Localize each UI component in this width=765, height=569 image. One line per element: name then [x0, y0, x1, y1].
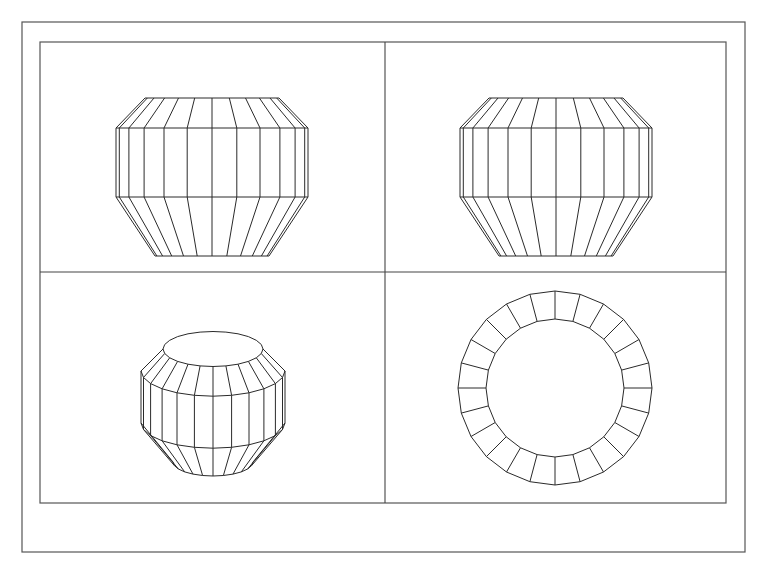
radial-edge [530, 294, 537, 321]
drawing-canvas [0, 0, 765, 569]
top-face [163, 332, 263, 367]
radial-edge [573, 455, 580, 482]
facet-edge [261, 98, 295, 256]
facet-edge [233, 364, 249, 474]
viewport-top-view[interactable] [458, 291, 652, 485]
radial-edge [615, 340, 639, 354]
facet-edge [267, 98, 305, 256]
radial-edge [590, 304, 604, 328]
radial-edge [471, 423, 495, 437]
facet-edge [187, 98, 197, 256]
radial-edge [573, 294, 580, 321]
facet-edge [508, 98, 528, 256]
facet-edge [611, 98, 649, 256]
radial-edge [486, 437, 506, 457]
radial-edge [471, 340, 495, 354]
facet-edge [585, 98, 605, 256]
facet-edge [144, 354, 175, 466]
facet-edge [194, 366, 202, 476]
radial-edge [590, 448, 604, 472]
facet-edge [177, 364, 193, 474]
facet-edge [223, 366, 231, 476]
radial-edge [622, 406, 649, 413]
facet-edge [129, 98, 163, 256]
radial-edge [507, 304, 521, 328]
facet-edge [531, 98, 541, 256]
radial-edge [604, 319, 624, 339]
facet-edge [241, 98, 261, 256]
viewport-side-view[interactable] [460, 98, 652, 256]
facet-edge [463, 98, 501, 256]
facet-edge [119, 98, 157, 256]
inner-ring [486, 319, 624, 457]
facet-edge [227, 98, 237, 256]
facet-edge [571, 98, 581, 256]
radial-edge [615, 423, 639, 437]
facet-edge [473, 98, 507, 256]
outer-frame [22, 22, 745, 552]
radial-edge [530, 455, 537, 482]
radial-edge [461, 363, 488, 370]
viewport-isometric-view[interactable] [141, 332, 285, 477]
radial-edge [507, 448, 521, 472]
radial-edge [604, 437, 624, 457]
radial-edge [486, 319, 506, 339]
viewport-front-view[interactable] [116, 98, 308, 256]
facet-edge [248, 358, 276, 469]
radial-edge [622, 363, 649, 370]
facet-edge [252, 354, 283, 466]
radial-edge [461, 406, 488, 413]
facet-edge [164, 98, 184, 256]
facet-edge [605, 98, 639, 256]
